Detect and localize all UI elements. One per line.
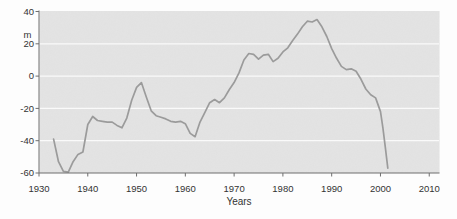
x-tick-label-1980: 1980 [272, 183, 293, 194]
y-tick-label-20: 20 [23, 38, 34, 49]
y-axis-unit-label: m [24, 29, 32, 40]
y-tick-label-40: 40 [23, 6, 34, 17]
x-axis-tick-labels: 193019401950196019701980199020002010 [28, 183, 439, 194]
y-tick-label-0: 0 [29, 70, 34, 81]
x-tick-label-1930: 1930 [28, 183, 49, 194]
x-tick-label-2000: 2000 [370, 183, 391, 194]
x-axis-ticks [39, 173, 429, 177]
y-tick-label--60: -60 [20, 167, 34, 178]
y-axis-ticks [36, 12, 40, 174]
x-tick-label-1940: 1940 [77, 183, 98, 194]
x-tick-label-1970: 1970 [224, 183, 245, 194]
line-chart: 40200-20-40-60 1930194019501960197019801… [0, 0, 457, 219]
x-tick-label-1960: 1960 [175, 183, 196, 194]
x-tick-label-1990: 1990 [321, 183, 342, 194]
y-tick-label--40: -40 [20, 135, 34, 146]
x-tick-label-2010: 2010 [419, 183, 440, 194]
x-tick-label-1950: 1950 [126, 183, 147, 194]
chart-canvas: 40200-20-40-60 1930194019501960197019801… [0, 0, 457, 219]
y-tick-label--20: -20 [20, 103, 34, 114]
plot-area-texture [40, 11, 440, 173]
x-axis-title: Years [226, 196, 251, 207]
